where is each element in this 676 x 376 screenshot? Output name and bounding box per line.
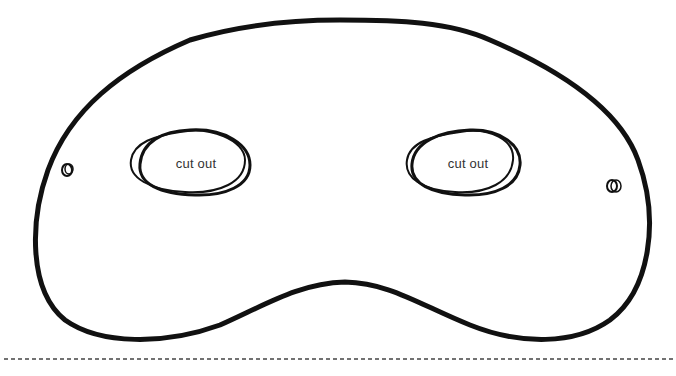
right-eye-label: cut out xyxy=(448,156,488,171)
left-eye-label: cut out xyxy=(176,156,216,171)
mask-outline xyxy=(35,20,649,339)
mask-template xyxy=(0,0,676,376)
